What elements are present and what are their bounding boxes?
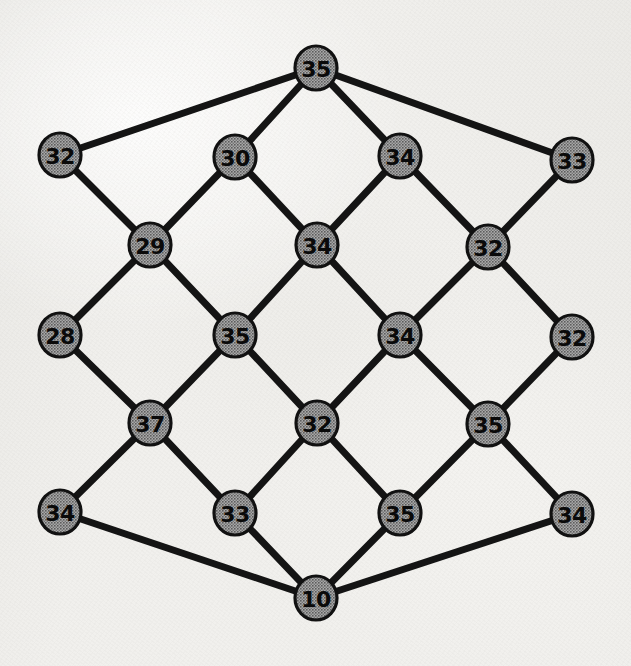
node-label: 33	[220, 502, 250, 527]
graph-node[interactable]: 30	[214, 135, 256, 179]
graph-node[interactable]: 32	[296, 401, 338, 445]
edge-layer	[60, 68, 572, 598]
node-label: 34	[45, 501, 75, 526]
node-label: 32	[45, 144, 75, 169]
graph-node[interactable]: 34	[296, 223, 338, 267]
graph-node[interactable]: 10	[295, 576, 337, 620]
node-label: 30	[220, 146, 250, 171]
graph-node[interactable]: 32	[467, 225, 509, 269]
graph-node[interactable]: 34	[39, 490, 81, 534]
graph-node[interactable]: 33	[214, 491, 256, 535]
graph-node[interactable]: 29	[129, 223, 171, 267]
node-label: 35	[220, 324, 250, 349]
node-label: 34	[385, 324, 415, 349]
node-label: 28	[45, 324, 75, 349]
node-label: 35	[473, 413, 503, 438]
graph-node[interactable]: 34	[379, 134, 421, 178]
graph-node[interactable]: 35	[467, 402, 509, 446]
node-label: 33	[557, 149, 587, 174]
graph-node[interactable]: 37	[129, 401, 171, 445]
node-label: 32	[473, 236, 503, 261]
graph-node[interactable]: 33	[551, 138, 593, 182]
graph-node[interactable]: 32	[551, 315, 593, 359]
graph-node[interactable]: 28	[39, 313, 81, 357]
graph-node[interactable]: 32	[39, 133, 81, 177]
node-label: 10	[301, 587, 331, 612]
graph-node[interactable]: 34	[379, 313, 421, 357]
graph-node[interactable]: 34	[551, 492, 593, 536]
graph-node[interactable]: 35	[295, 46, 337, 90]
node-label: 37	[135, 412, 165, 437]
graph-diagram-page: 3532303433293432283534323732353433353410	[0, 0, 631, 666]
node-label: 32	[302, 412, 332, 437]
node-label: 34	[557, 503, 587, 528]
node-label: 29	[135, 234, 165, 259]
node-label: 35	[301, 57, 331, 82]
node-label: 32	[557, 326, 587, 351]
graph-edge	[316, 68, 572, 160]
node-label: 34	[302, 234, 332, 259]
graph-node[interactable]: 35	[379, 491, 421, 535]
node-label: 35	[385, 502, 415, 527]
graph-canvas: 3532303433293432283534323732353433353410	[0, 0, 631, 666]
node-label: 34	[385, 145, 415, 170]
graph-node[interactable]: 35	[214, 313, 256, 357]
